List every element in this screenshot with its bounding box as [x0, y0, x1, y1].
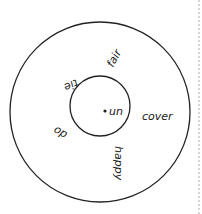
word-wheel-diagram: un fair tie cover do happy [0, 0, 202, 214]
center-prefix: un [109, 105, 123, 118]
word-do: do [51, 123, 70, 141]
word-cover: cover [142, 110, 174, 123]
word-fair: fair [104, 46, 125, 69]
word-happy: happy [112, 146, 125, 181]
center-dot [103, 109, 106, 112]
word-tie: tie [62, 76, 81, 94]
